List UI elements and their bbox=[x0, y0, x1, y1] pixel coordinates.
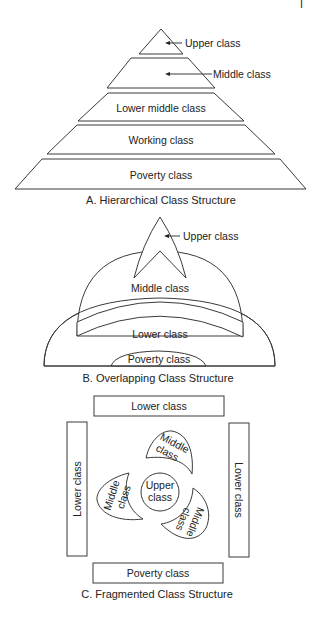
label-poverty-class: Poverty class bbox=[128, 353, 190, 365]
hierarchical-diagram: Upper class Middle class Lower middle cl… bbox=[15, 29, 306, 206]
overlapping-diagram: Upper class Middle class Lower class Pov… bbox=[44, 217, 275, 384]
fragmented-diagram: Lower class Lower class Lower class Pove… bbox=[67, 396, 249, 600]
label-upper-class: Upper class bbox=[183, 230, 238, 242]
label-lower-middle-class: Lower middle class bbox=[116, 102, 205, 114]
label-poverty-class: Poverty class bbox=[127, 567, 189, 579]
label-middle-class: Middle class bbox=[213, 68, 271, 80]
pyramid-layer-middle bbox=[107, 58, 215, 88]
label-top-lower-class: Lower class bbox=[131, 400, 186, 412]
label-right-lower-class: Lower class bbox=[233, 462, 245, 517]
class-structure-figure: I Upper class Middle class Lower middle … bbox=[0, 0, 322, 625]
label-upper-line2: class bbox=[148, 491, 172, 503]
pyramid-layer-upper bbox=[139, 29, 183, 54]
label-left-lower-class: Lower class bbox=[71, 461, 83, 516]
caption-c: C. Fragmented Class Structure bbox=[81, 588, 233, 600]
label-upper-class: Upper class bbox=[185, 37, 240, 49]
label-working-class: Working class bbox=[128, 134, 193, 146]
page-mark: I bbox=[300, 0, 303, 10]
caption-b: B. Overlapping Class Structure bbox=[82, 372, 233, 384]
label-poverty-class: Poverty class bbox=[130, 169, 192, 181]
label-lower-class: Lower class bbox=[132, 328, 187, 340]
label-upper-line1: Upper bbox=[146, 479, 175, 491]
label-middle-class: Middle class bbox=[131, 282, 189, 294]
caption-a: A. Hierarchical Class Structure bbox=[86, 194, 236, 206]
